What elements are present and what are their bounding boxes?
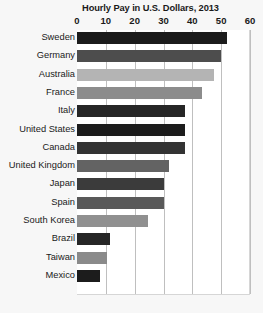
bar-category-label: Australia (0, 69, 75, 79)
bar (77, 50, 221, 62)
bar-category-label: Canada (0, 142, 75, 152)
x-tick-label: 20 (129, 15, 140, 26)
bar-row: Australia (0, 67, 263, 85)
bar (77, 160, 169, 172)
bar-row: Mexico (0, 268, 263, 286)
bar-category-label: Sweden (0, 32, 75, 42)
bar-category-label: United States (0, 124, 75, 134)
x-tick-label: 40 (187, 15, 198, 26)
chart-title: Hourly Pay in U.S. Dollars, 2013 (0, 3, 263, 13)
bar-row: Japan (0, 176, 263, 194)
x-tick-label: 30 (158, 15, 169, 26)
bar-category-label: Mexico (0, 270, 75, 280)
bar-row: Taiwan (0, 250, 263, 268)
bar (77, 124, 185, 136)
bar-row: United States (0, 122, 263, 140)
x-tick-label: 0 (74, 15, 79, 26)
bar-category-label: United Kingdom (0, 160, 75, 170)
bar-category-label: Germany (0, 50, 75, 60)
bar-row: Sweden (0, 30, 263, 48)
bar (77, 233, 110, 245)
bar-row: Canada (0, 140, 263, 158)
bar-row: France (0, 85, 263, 103)
bar-category-label: France (0, 87, 75, 97)
bar-chart-figure: Hourly Pay in U.S. Dollars, 2013 0102030… (0, 0, 263, 313)
bar-category-label: South Korea (0, 215, 75, 225)
bar-rows: SwedenGermanyAustraliaFranceItalyUnited … (0, 30, 263, 295)
x-tick-label: 60 (245, 15, 256, 26)
x-axis-tick-labels: 0102030405060 (0, 15, 263, 29)
bar-row: Brazil (0, 231, 263, 249)
bar (77, 197, 164, 209)
bar (77, 270, 100, 282)
bar-category-label: Spain (0, 197, 75, 207)
bar (77, 142, 185, 154)
bar (77, 178, 164, 190)
bar (77, 105, 185, 117)
bar-category-label: Italy (0, 105, 75, 115)
bar (77, 215, 148, 227)
bar (77, 32, 227, 44)
bar-category-label: Taiwan (0, 252, 75, 262)
bar-category-label: Brazil (0, 233, 75, 243)
bar (77, 252, 107, 264)
bar-row: South Korea (0, 213, 263, 231)
bar-row: Germany (0, 48, 263, 66)
bar-row: Italy (0, 103, 263, 121)
bar-row: United Kingdom (0, 158, 263, 176)
x-tick-label: 50 (216, 15, 227, 26)
bar-row: Spain (0, 195, 263, 213)
bar (77, 87, 202, 99)
bar (77, 69, 214, 81)
x-tick-label: 10 (101, 15, 112, 26)
bar-category-label: Japan (0, 178, 75, 188)
